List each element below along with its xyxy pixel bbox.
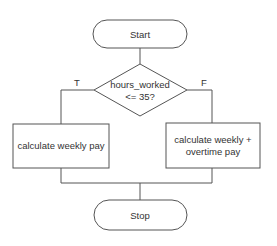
false-edge-label: F: [201, 77, 207, 88]
process-true-label: calculate weekly pay: [17, 140, 104, 151]
process-box-false: calculate weekly + overtime pay: [166, 123, 260, 168]
process-false-label-line1: calculate weekly +: [174, 134, 252, 145]
connector-false-branch: [187, 90, 212, 123]
flowchart: Start hours_worked <= 35? T F calculate …: [0, 0, 277, 246]
connector-merge: [61, 168, 212, 183]
start-label: Start: [130, 29, 150, 40]
true-edge-label: T: [74, 77, 80, 88]
process-false-label-line2: overtime pay: [186, 146, 241, 157]
process-box-true: calculate weekly pay: [13, 124, 109, 168]
stop-label: Stop: [130, 210, 150, 221]
connector-true-branch: [61, 90, 94, 124]
start-terminal: Start: [93, 20, 187, 48]
decision-diamond: hours_worked <= 35?: [94, 64, 187, 116]
stop-terminal: Stop: [94, 200, 187, 230]
decision-label-line2: <= 35?: [125, 91, 155, 102]
decision-label-line1: hours_worked: [110, 79, 170, 90]
